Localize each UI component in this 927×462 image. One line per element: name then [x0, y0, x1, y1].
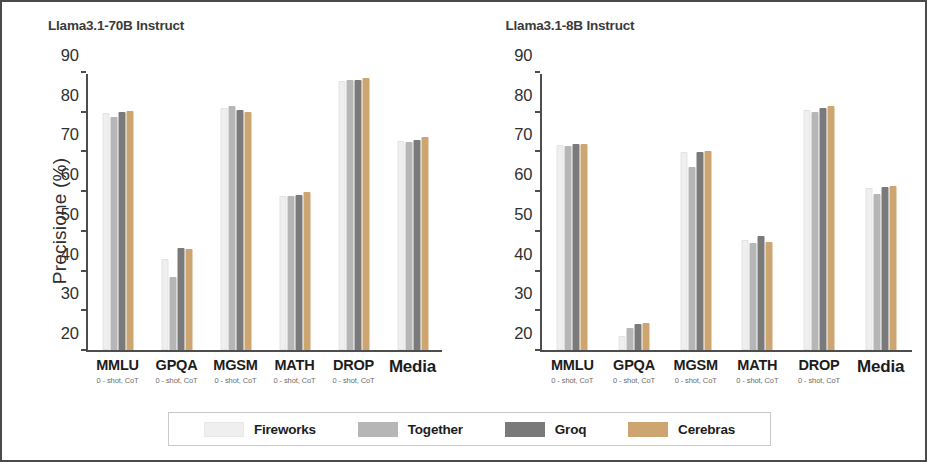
bar-group: Media: [850, 74, 912, 350]
y-tick-mark: [535, 230, 540, 232]
legend-item-groq: Groq: [505, 422, 586, 437]
y-tick-mark: [81, 230, 86, 232]
bar-together: [688, 167, 695, 350]
bar-fireworks: [742, 240, 749, 350]
chart-panel-70b: Llama3.1-70B Instruct Precisione (%) 203…: [2, 2, 464, 407]
legend-swatch: [628, 422, 668, 437]
bars: [338, 74, 369, 350]
y-tick-label: 60: [61, 165, 79, 184]
y-tick-mark: [81, 111, 86, 113]
y-tick-label: 20: [514, 324, 532, 343]
bar-fireworks: [220, 108, 227, 350]
y-tick-mark: [81, 71, 86, 73]
bar-groq: [881, 187, 888, 350]
x-category-subtitle: 0 - shot, CoT: [96, 376, 139, 385]
bar-together: [565, 146, 572, 350]
y-tick-label: 60: [514, 165, 532, 184]
y-tick-label: 90: [514, 46, 532, 65]
bar-cerebras: [244, 112, 251, 350]
bar-groq: [118, 112, 125, 350]
x-category-label: Media: [389, 357, 436, 380]
y-tick-mark: [81, 270, 86, 272]
x-category-name: Media: [857, 357, 904, 377]
y-tick-label: 30: [514, 284, 532, 303]
y-tick-label: 30: [61, 284, 79, 303]
y-tick-mark: [81, 349, 86, 351]
charts-row: Llama3.1-70B Instruct Precisione (%) 203…: [2, 2, 925, 407]
legend-swatch: [358, 422, 398, 437]
bar-cerebras: [421, 137, 428, 350]
bars: [680, 74, 711, 350]
bar-group: MATH0 - shot, CoT: [727, 74, 789, 350]
bar-fireworks: [279, 196, 286, 350]
x-category-name: DROP: [798, 357, 840, 373]
x-category-name: MMLU: [551, 357, 594, 373]
bar-cerebras: [185, 249, 192, 350]
bar-group: DROP0 - shot, CoT: [788, 74, 850, 350]
bar-fireworks: [804, 110, 811, 351]
bar-group: GPQA0 - shot, CoT: [603, 74, 665, 350]
chart-figure: Llama3.1-70B Instruct Precisione (%) 203…: [0, 0, 927, 462]
y-tick-mark: [81, 190, 86, 192]
x-category-subtitle: 0 - shot, CoT: [736, 376, 778, 385]
bar-group: MMLU0 - shot, CoT: [88, 74, 147, 350]
bars: [742, 74, 773, 350]
chart-title-8b: Llama3.1-8B Instruct: [506, 18, 635, 33]
bar-groq: [413, 140, 420, 350]
x-category-name: MGSM: [674, 357, 718, 373]
legend-label: Fireworks: [254, 422, 316, 437]
bar-fireworks: [865, 188, 872, 350]
bar-together: [110, 117, 117, 350]
bar-groups-8b: MMLU0 - shot, CoTGPQA0 - shot, CoTMGSM0 …: [542, 74, 912, 350]
y-tick-label: 70: [514, 125, 532, 144]
y-tick-mark: [535, 150, 540, 152]
y-tick-mark: [535, 71, 540, 73]
x-category-label: MGSM0 - shot, CoT: [674, 357, 718, 385]
x-category-label: GPQA0 - shot, CoT: [155, 357, 197, 385]
y-tick-label: 90: [61, 46, 79, 65]
legend-swatch: [505, 422, 545, 437]
bars: [279, 74, 310, 350]
plot-area-8b: 2030405060708090 MMLU0 - shot, CoTGPQA0 …: [540, 74, 912, 352]
y-tick-label: 40: [514, 244, 532, 263]
bar-fireworks: [338, 81, 345, 350]
bar-group: DROP0 - shot, CoT: [324, 74, 383, 350]
x-category-subtitle: 0 - shot, CoT: [155, 376, 197, 385]
bar-groq: [354, 80, 361, 350]
bar-fireworks: [161, 259, 168, 350]
x-category-label: MMLU0 - shot, CoT: [96, 357, 139, 385]
x-category-label: MMLU0 - shot, CoT: [551, 357, 594, 385]
bar-cerebras: [126, 111, 133, 350]
y-tick-label: 20: [61, 324, 79, 343]
bars: [557, 74, 588, 350]
y-tick-label: 40: [61, 244, 79, 263]
bar-groq: [236, 110, 243, 350]
bar-group: GPQA0 - shot, CoT: [147, 74, 206, 350]
x-category-subtitle: 0 - shot, CoT: [674, 376, 718, 385]
bar-fireworks: [557, 145, 564, 350]
bar-together: [405, 142, 412, 350]
legend-label: Together: [408, 422, 463, 437]
bars: [397, 74, 428, 350]
bar-cerebras: [303, 192, 310, 350]
bar-cerebras: [704, 151, 711, 350]
bar-together: [873, 194, 880, 350]
x-category-name: GPQA: [155, 357, 197, 373]
x-category-subtitle: 0 - shot, CoT: [613, 376, 655, 385]
bar-cerebras: [581, 144, 588, 350]
bar-group: MGSM0 - shot, CoT: [665, 74, 727, 350]
legend-item-together: Together: [358, 422, 463, 437]
bar-together: [287, 196, 294, 350]
x-category-name: MMLU: [96, 357, 139, 373]
y-tick-label: 80: [61, 85, 79, 104]
bar-together: [228, 106, 235, 350]
bars: [865, 74, 896, 350]
x-category-label: DROP0 - shot, CoT: [332, 357, 374, 385]
bar-groq: [295, 195, 302, 350]
y-tick-mark: [535, 111, 540, 113]
bar-group: Media: [383, 74, 442, 350]
bar-together: [169, 277, 176, 350]
legend-item-fireworks: Fireworks: [204, 422, 316, 437]
bars: [102, 74, 133, 350]
x-category-subtitle: 0 - shot, CoT: [551, 376, 594, 385]
